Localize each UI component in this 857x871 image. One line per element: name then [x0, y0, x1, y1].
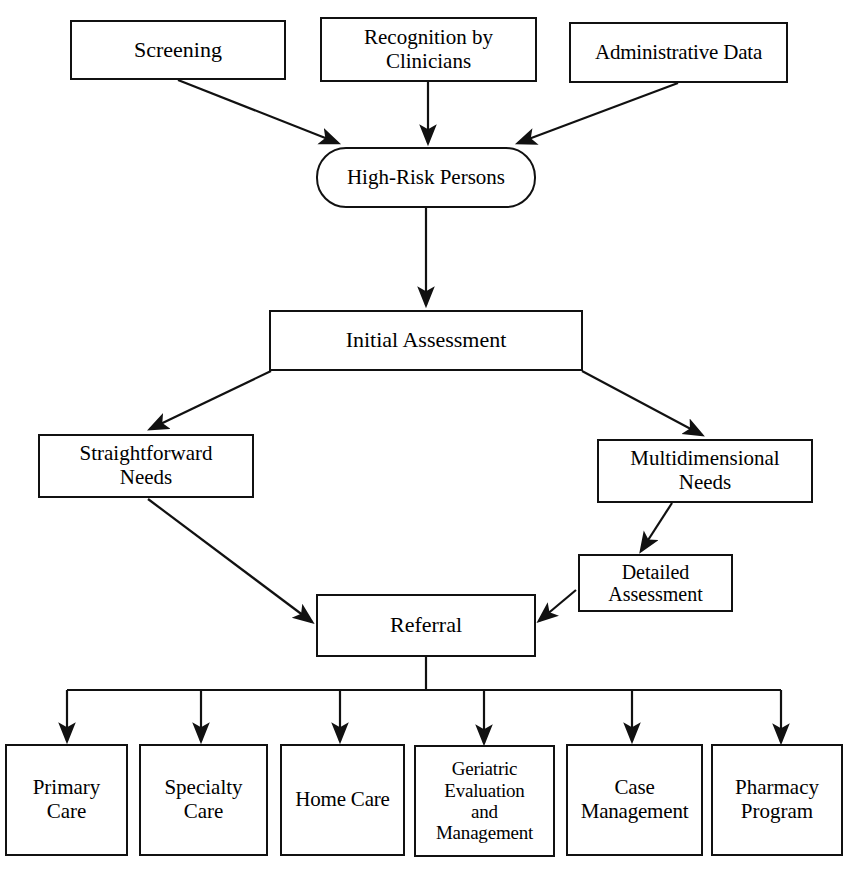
node-pharmacy-program-label: Pharmacy Program	[717, 776, 837, 823]
node-geriatric-evaluation-and-management[interactable]: Geriatric Evaluation and Management	[414, 745, 555, 857]
node-recognition-by-clinicians-label: Recognition by Clinicians	[326, 26, 531, 73]
flowchart-canvas: Screening Recognition by Clinicians Admi…	[0, 0, 857, 871]
node-case-management[interactable]: Case Management	[566, 744, 703, 856]
node-screening[interactable]: Screening	[70, 20, 286, 80]
node-initial-assessment[interactable]: Initial Assessment	[269, 310, 583, 371]
edge-detailed-to-referral	[539, 590, 576, 621]
node-high-risk-persons-label: High-Risk Persons	[322, 166, 530, 190]
edge-multidimensional-to-detailed	[641, 503, 672, 551]
node-detailed-assessment-label: Detailed Assessment	[584, 561, 727, 606]
node-screening-label: Screening	[76, 38, 280, 63]
node-pharmacy-program[interactable]: Pharmacy Program	[711, 744, 843, 856]
node-initial-assessment-label: Initial Assessment	[275, 328, 577, 353]
node-specialty-care[interactable]: Specialty Care	[139, 744, 268, 856]
node-multidimensional-needs[interactable]: Multidimensional Needs	[597, 439, 813, 503]
node-multidimensional-needs-label: Multidimensional Needs	[603, 447, 807, 494]
edge-straightforward-to-referral	[148, 499, 312, 622]
edge-initial-to-straightforward	[150, 371, 271, 429]
node-straightforward-needs-label: Straightforward Needs	[44, 442, 248, 489]
edge-screening-to-high-risk	[178, 80, 338, 143]
edge-administrative-to-high-risk	[518, 83, 678, 143]
node-referral-label: Referral	[322, 613, 530, 638]
node-high-risk-persons[interactable]: High-Risk Persons	[316, 147, 536, 208]
node-home-care-label: Home Care	[286, 788, 399, 812]
node-geriatric-evaluation-and-management-label: Geriatric Evaluation and Management	[420, 758, 549, 843]
node-administrative-data-label: Administrative Data	[575, 41, 782, 65]
node-referral[interactable]: Referral	[316, 594, 536, 657]
node-specialty-care-label: Specialty Care	[145, 776, 262, 823]
node-primary-care-label: Primary Care	[11, 776, 122, 823]
node-home-care[interactable]: Home Care	[280, 744, 405, 856]
node-primary-care[interactable]: Primary Care	[5, 744, 128, 856]
node-administrative-data[interactable]: Administrative Data	[569, 22, 788, 83]
node-recognition-by-clinicians[interactable]: Recognition by Clinicians	[320, 17, 537, 82]
node-straightforward-needs[interactable]: Straightforward Needs	[38, 434, 254, 498]
edge-initial-to-multidimensional	[582, 371, 702, 435]
node-detailed-assessment[interactable]: Detailed Assessment	[578, 554, 733, 612]
node-case-management-label: Case Management	[572, 776, 697, 823]
